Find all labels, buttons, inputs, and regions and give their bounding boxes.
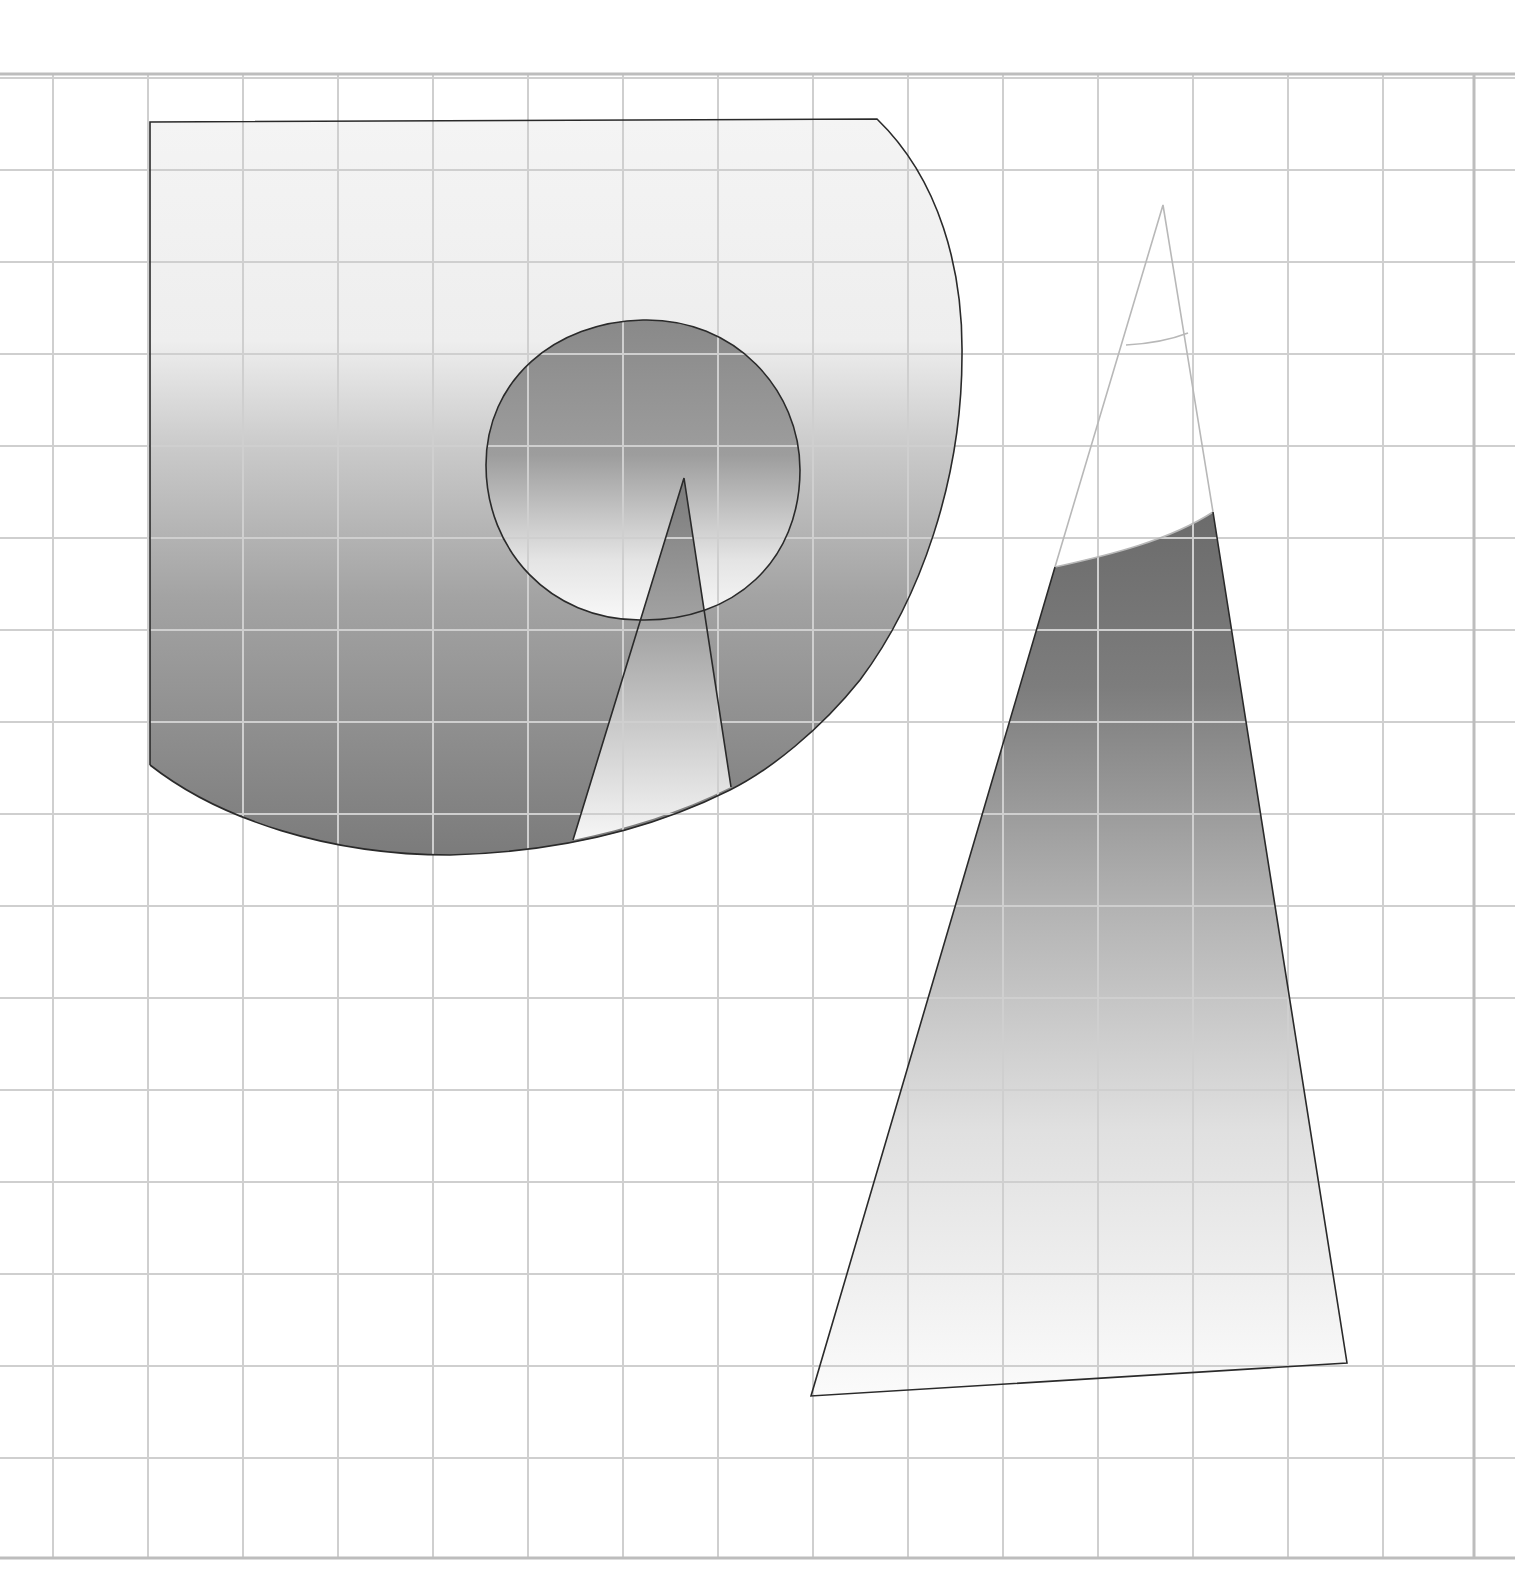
tall-triangle-shape — [811, 512, 1347, 1396]
diagram-canvas — [0, 0, 1529, 1589]
inner-circle-shape — [486, 320, 800, 620]
